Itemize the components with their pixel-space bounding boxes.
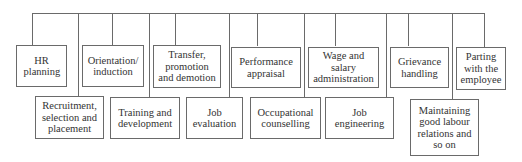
box-parting-with-employee: Parting with the employee — [456, 47, 506, 90]
box-grievance-handling: Grievance handling — [390, 47, 449, 88]
connector-occupational — [304, 13, 305, 97]
box-job-engineering: Job engineering — [325, 97, 394, 139]
box-label: Job evaluation — [190, 107, 239, 130]
connector-wage — [335, 13, 336, 46]
connector-hr-planning — [32, 13, 33, 46]
connector-orientation — [112, 13, 113, 46]
box-label: Training and development — [114, 107, 176, 130]
box-label: Transfer, promotion and demotion — [157, 49, 217, 84]
connector-job-engineering — [386, 13, 387, 97]
box-maintaining-labour-relations: Maintaining good labour relations and so… — [410, 99, 479, 156]
box-label: Orientation/ induction — [86, 55, 140, 78]
box-label: Grievance handling — [395, 56, 445, 79]
box-label: Performance appraisal — [235, 56, 297, 79]
connector-performance — [257, 13, 258, 46]
box-label: Maintaining good labour relations and so… — [415, 105, 475, 151]
box-transfer-promotion-demotion: Transfer, promotion and demotion — [153, 45, 221, 88]
connector-transfer — [175, 13, 176, 46]
connector-grievance — [408, 13, 409, 46]
top-connector-line — [32, 13, 485, 14]
box-performance-appraisal: Performance appraisal — [231, 47, 301, 88]
box-occupational-counselling: Occupational counselling — [250, 97, 321, 139]
box-recruitment-selection-placement: Recruitment, selection and placement — [35, 96, 104, 139]
connector-training — [149, 13, 150, 97]
connector-maintaining — [452, 13, 453, 100]
box-label: Wage and salary administration — [312, 50, 375, 85]
box-label: Occupational counselling — [254, 107, 317, 130]
box-label: Recruitment, selection and placement — [41, 100, 99, 135]
box-label: Job engineering — [329, 107, 390, 130]
box-label: Parting with the employee — [460, 51, 502, 86]
box-job-evaluation: Job evaluation — [186, 97, 243, 139]
box-label: HR planning — [24, 55, 60, 78]
box-wage-salary-administration: Wage and salary administration — [308, 47, 379, 88]
box-hr-planning: HR planning — [16, 45, 67, 87]
connector-job-evaluation — [229, 13, 230, 97]
box-orientation-induction: Orientation/ induction — [82, 45, 144, 87]
connector-parting — [484, 13, 485, 47]
connector-recruitment — [78, 13, 79, 97]
box-training-development: Training and development — [110, 97, 180, 139]
